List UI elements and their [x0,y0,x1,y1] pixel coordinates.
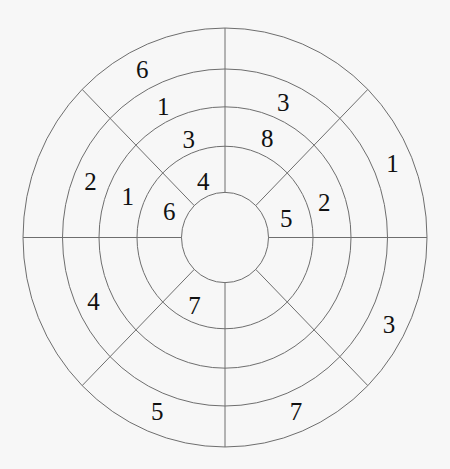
cell-number: 2 [84,168,97,195]
concentric-ring-puzzle: 52183431661247573 [0,0,450,469]
cell-number: 1 [386,150,399,177]
cell-number: 1 [121,183,134,210]
inner-circle [182,192,269,282]
cell-number: 8 [261,125,274,152]
sector-dividers [23,28,427,447]
cell-number: 1 [157,93,170,120]
sector-divider-line [256,269,368,385]
cell-number: 7 [188,292,201,319]
cell-number: 3 [183,126,196,153]
cell-number: 3 [383,311,396,338]
target-puzzle-diagram: 52183431661247573 [0,0,450,469]
cell-number: 7 [290,398,303,425]
cell-number: 6 [136,56,149,83]
sector-divider-line [82,89,194,205]
cell-number: 6 [163,198,176,225]
cell-number: 3 [277,89,290,116]
cell-number: 2 [318,189,331,216]
cell-number: 4 [87,288,100,315]
cell-number: 5 [280,205,293,232]
cell-number: 5 [151,398,164,425]
cell-number: 4 [197,168,210,195]
cell-numbers: 52183431661247573 [84,56,398,425]
